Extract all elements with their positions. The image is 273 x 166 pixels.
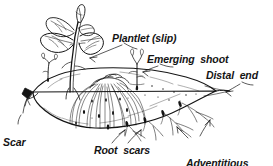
figure-canvas: Plantlet (slip) Emerging shoot Distal en…	[0, 0, 273, 166]
root-mass-crown	[90, 74, 129, 89]
tuber-surface-texture	[44, 72, 199, 124]
label-scar-line1: Scar	[3, 137, 58, 148]
label-scar-attachment: Scar attachment to plant	[3, 116, 58, 166]
label-distal-end: Distal end	[206, 70, 258, 81]
adventitious-roots	[129, 103, 214, 141]
label-adventitious-line1: Adventitious	[186, 158, 248, 166]
root-mass-specks	[75, 97, 128, 124]
label-adventitious-roots: Adventitious roots	[186, 137, 248, 166]
upper-left-sprout	[42, 53, 58, 82]
label-root-scars: Root scars	[94, 145, 150, 156]
label-plantlet: Plantlet (slip)	[112, 33, 176, 44]
label-emerging-shoot: Emerging shoot	[147, 54, 228, 65]
plantlet-slip	[41, 5, 104, 100]
emerging-shoot	[129, 49, 145, 91]
fibrous-root-mass	[70, 83, 145, 128]
